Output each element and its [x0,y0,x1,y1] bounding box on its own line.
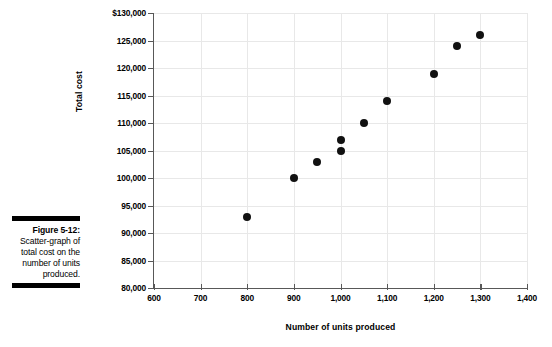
x-axis-tick-label: 700 [178,293,224,303]
y-axis-tick-label: $130,000 [90,8,146,18]
gridline-vertical [247,13,248,288]
x-axis-title: Number of units produced [154,322,527,332]
x-axis-tick-label: 800 [224,293,270,303]
x-axis-tick [341,284,342,290]
y-axis-tick-label: 110,000 [90,118,146,128]
gridline-vertical [294,13,295,288]
gridline-vertical [527,13,528,288]
data-point [337,136,345,144]
y-axis-tick-label: 85,000 [90,256,146,266]
x-axis-tick-label: 1,400 [504,293,550,303]
x-axis-tick [294,284,295,290]
data-point [383,97,391,105]
gridline-vertical [387,13,388,288]
y-axis-tick [148,178,154,179]
data-point [313,158,321,166]
y-axis-title: Total cost [74,71,84,112]
x-axis-tick-label: 900 [271,293,317,303]
x-axis-tick [527,284,528,290]
y-axis-tick-label: 80,000 [90,283,146,293]
gridline-vertical [434,13,435,288]
y-axis-tick [148,206,154,207]
y-axis-tick [148,151,154,152]
x-axis-tick [247,284,248,290]
y-axis-tick-label: 100,000 [90,173,146,183]
plot-area [154,13,527,288]
y-axis-tick-label: 105,000 [90,146,146,156]
gridline-vertical [201,13,202,288]
scatter-chart: $130,000125,000120,000115,000110,000105,… [0,0,552,347]
x-axis-tick [387,284,388,290]
y-axis-tick-label: 95,000 [90,201,146,211]
x-axis-tick [480,284,481,290]
x-axis-tick-label: 1,000 [318,293,364,303]
x-axis-tick-label: 1,100 [364,293,410,303]
data-point [360,119,368,127]
y-axis-tick-label: 90,000 [90,228,146,238]
y-axis-tick-label: 125,000 [90,36,146,46]
x-axis-tick [201,284,202,290]
y-axis-tick [148,68,154,69]
y-axis-tick-label: 115,000 [90,91,146,101]
y-axis-tick [148,13,154,14]
x-axis-tick-label: 1,300 [457,293,503,303]
y-axis-tick [148,123,154,124]
y-axis-tick [148,41,154,42]
x-axis-tick [434,284,435,290]
y-axis-tick [148,261,154,262]
data-point [476,31,484,39]
data-point [243,213,251,221]
x-axis-tick-label: 1,200 [411,293,457,303]
y-axis-tick [148,96,154,97]
gridline-vertical [480,13,481,288]
data-point [290,174,298,182]
y-axis-tick-label: 120,000 [90,63,146,73]
x-axis-tick-label: 600 [131,293,177,303]
data-point [453,42,461,50]
data-point [337,147,345,155]
x-axis-tick [154,284,155,290]
data-point [430,70,438,78]
y-axis-tick [148,233,154,234]
